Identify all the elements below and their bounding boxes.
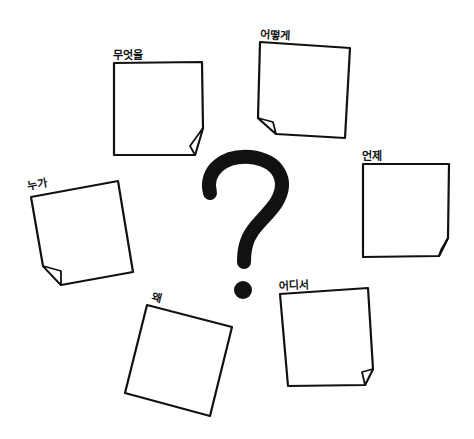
diagram-canvas <box>0 0 474 439</box>
sticky-note-who <box>31 181 133 285</box>
page-curl-icon <box>362 369 373 385</box>
note-body <box>125 305 232 416</box>
sticky-note-why <box>125 305 232 416</box>
sticky-note-when <box>363 164 449 257</box>
note-label-when: 언제 <box>362 151 382 162</box>
note-body <box>280 288 373 386</box>
sticky-note-how <box>258 42 350 138</box>
note-label-where: 어디서 <box>278 279 309 292</box>
note-label-what: 무엇을 <box>113 50 143 61</box>
sticky-note-what <box>114 62 203 155</box>
note-body <box>363 164 449 257</box>
sticky-notes-layer <box>31 42 449 416</box>
question-mark-icon <box>209 157 282 299</box>
note-label-who: 누가 <box>26 178 48 192</box>
note-body <box>114 62 203 155</box>
note-label-how: 어떻게 <box>260 29 291 42</box>
sticky-note-where <box>280 288 373 386</box>
